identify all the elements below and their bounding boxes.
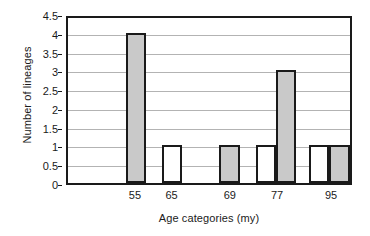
y-tick-mark	[58, 91, 62, 92]
bar	[126, 33, 146, 183]
x-tick-label: 69	[210, 188, 250, 202]
x-tick-label: 55	[115, 188, 155, 202]
y-tick-mark	[58, 129, 62, 130]
y-tick-mark	[58, 185, 62, 186]
y-tick-mark	[58, 72, 62, 73]
y-tick-mark	[58, 54, 62, 55]
bar	[256, 145, 276, 183]
x-tick-label: 95	[311, 188, 351, 202]
bar	[276, 70, 296, 183]
x-tick-label: 65	[152, 188, 192, 202]
y-tick-mark	[58, 166, 62, 167]
y-tick-label: 3.5	[43, 48, 58, 60]
y-tick-label: 2.5	[43, 85, 58, 97]
y-tick-label: 0.5	[43, 160, 58, 172]
y-axis-tick-labels: 00.511.522.533.544.5	[28, 16, 62, 185]
y-tick-mark	[58, 35, 62, 36]
bar	[219, 145, 239, 183]
x-tick-label: 77	[257, 188, 297, 202]
bar-chart-figure: Number of lineages 00.511.522.533.544.5 …	[0, 0, 370, 236]
y-tick-mark	[58, 16, 62, 17]
plot-area	[66, 16, 352, 185]
bar-series	[68, 18, 350, 183]
y-tick-label: 1.5	[43, 123, 58, 135]
bar	[329, 145, 349, 183]
bar	[162, 145, 182, 183]
x-axis-title: Age categories (my)	[66, 210, 352, 226]
x-axis-tick-labels: 5565697795	[66, 188, 352, 204]
bar	[309, 145, 329, 183]
y-tick-label: 4.5	[43, 10, 58, 22]
y-tick-mark	[58, 110, 62, 111]
y-tick-mark	[58, 147, 62, 148]
